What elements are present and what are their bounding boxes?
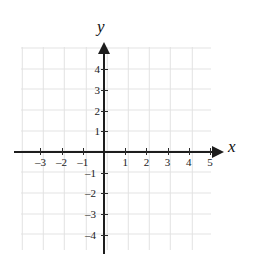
y-tick-label: –1 xyxy=(78,168,96,179)
x-axis-tick xyxy=(168,148,169,155)
x-axis-tick xyxy=(146,148,147,155)
y-tick-label: 4 xyxy=(82,64,100,75)
x-axis-tick xyxy=(62,148,63,155)
x-axis-tick xyxy=(125,148,126,155)
x-axis-line xyxy=(14,151,216,153)
x-axis-tick xyxy=(40,148,41,155)
y-axis-tick xyxy=(101,214,108,215)
x-axis-tick xyxy=(83,148,84,155)
y-axis-tick xyxy=(101,90,108,91)
x-axis-label: x xyxy=(228,138,236,155)
y-axis-line xyxy=(103,53,105,254)
y-tick-label: 2 xyxy=(82,106,100,117)
y-tick-label: –3 xyxy=(78,209,96,220)
y-axis-tick xyxy=(101,131,108,132)
x-tick-label: 3 xyxy=(158,157,178,168)
y-axis-tick xyxy=(101,173,108,174)
y-axis-tick xyxy=(101,193,108,194)
x-tick-label: 1 xyxy=(115,157,135,168)
x-tick-label: 5 xyxy=(200,157,220,168)
y-tick-label: –4 xyxy=(78,230,96,241)
x-tick-label: –3 xyxy=(30,157,50,168)
x-tick-label: 4 xyxy=(179,157,199,168)
y-axis-arrowhead-icon xyxy=(98,42,110,54)
grid-lines xyxy=(21,47,211,250)
x-tick-label: –2 xyxy=(52,157,72,168)
y-tick-label: 1 xyxy=(82,126,100,137)
y-axis-label: y xyxy=(97,18,105,35)
x-tick-label: 2 xyxy=(136,157,156,168)
x-axis-tick xyxy=(189,148,190,155)
coordinate-plane-figure: –3–2–1123454321–1–2–3–4 y x xyxy=(0,0,254,258)
y-tick-label: 3 xyxy=(82,85,100,96)
y-axis-tick xyxy=(101,111,108,112)
y-tick-label: –2 xyxy=(78,188,96,199)
x-axis-tick xyxy=(210,148,211,155)
y-axis-tick xyxy=(101,69,108,70)
y-axis-tick xyxy=(101,235,108,236)
